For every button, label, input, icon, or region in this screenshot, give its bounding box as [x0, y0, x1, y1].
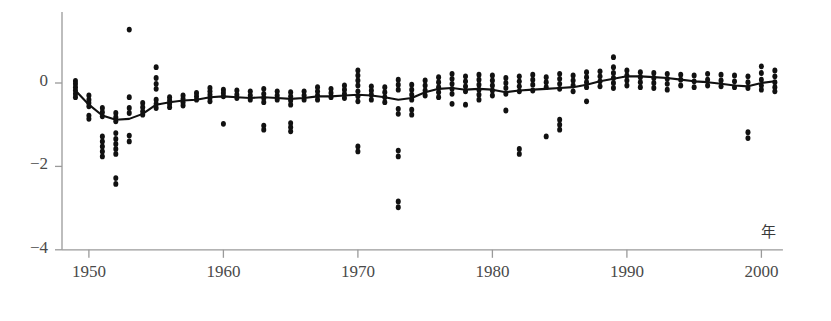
data-point	[127, 138, 132, 144]
data-point	[517, 151, 522, 157]
data-point	[127, 94, 132, 100]
data-point	[745, 135, 750, 141]
data-point	[113, 130, 118, 136]
data-point	[557, 117, 562, 123]
data-point	[611, 80, 616, 86]
data-point	[396, 148, 401, 154]
data-point	[503, 85, 508, 91]
data-point	[759, 87, 764, 93]
data-point	[355, 88, 360, 94]
data-point	[261, 99, 266, 105]
data-point	[692, 84, 697, 90]
x-tick-label-1950: 1950	[54, 262, 124, 282]
data-point	[127, 105, 132, 111]
data-point	[423, 83, 428, 89]
data-point	[611, 64, 616, 70]
data-point	[476, 82, 481, 88]
data-point	[127, 133, 132, 139]
data-point	[745, 73, 750, 79]
data-point	[503, 80, 508, 86]
data-point	[355, 98, 360, 104]
data-point	[719, 78, 724, 84]
y-tick-label-neg2: −2	[0, 154, 48, 174]
data-point	[584, 74, 589, 80]
data-point	[355, 148, 360, 154]
data-point	[113, 136, 118, 142]
data-point	[315, 97, 320, 103]
data-point	[732, 78, 737, 84]
data-point	[705, 71, 710, 77]
data-point	[571, 88, 576, 94]
data-point	[490, 83, 495, 89]
data-point	[772, 68, 777, 74]
data-point	[759, 77, 764, 83]
data-point	[557, 122, 562, 128]
data-point	[154, 64, 159, 70]
data-point	[382, 89, 387, 95]
x-axis-unit-label: 年	[761, 220, 776, 241]
data-point	[598, 68, 603, 74]
data-point	[638, 79, 643, 85]
data-point	[436, 79, 441, 85]
data-point	[396, 77, 401, 83]
data-point	[598, 83, 603, 89]
data-points-layer	[73, 27, 777, 210]
data-point	[409, 87, 414, 93]
data-point	[127, 27, 132, 33]
data-point	[355, 143, 360, 149]
data-point	[382, 84, 387, 90]
data-point	[450, 101, 455, 107]
chart-figure: 0−2−4 195019601970198019902000 年	[0, 0, 831, 321]
data-point	[624, 68, 629, 74]
data-point	[638, 69, 643, 75]
data-point	[517, 73, 522, 79]
data-point	[638, 84, 643, 90]
data-point	[355, 78, 360, 84]
data-point	[396, 111, 401, 117]
data-point	[678, 83, 683, 89]
data-point	[557, 76, 562, 82]
x-tick-label-1970: 1970	[323, 262, 393, 282]
data-point	[772, 88, 777, 94]
data-point	[732, 73, 737, 79]
y-tick-label-neg4: −4	[0, 238, 48, 258]
data-point	[288, 102, 293, 108]
data-point	[719, 72, 724, 78]
data-point	[598, 73, 603, 79]
data-point	[476, 92, 481, 98]
data-point	[665, 71, 670, 77]
data-point	[571, 78, 576, 84]
data-point	[450, 76, 455, 82]
data-point	[113, 181, 118, 187]
data-point	[490, 78, 495, 84]
data-point	[517, 78, 522, 84]
data-point	[369, 97, 374, 103]
data-point	[113, 175, 118, 181]
data-point	[154, 75, 159, 81]
data-point	[503, 75, 508, 81]
x-tick-label-1990: 1990	[592, 262, 662, 282]
data-point	[490, 93, 495, 99]
data-point	[261, 127, 266, 133]
data-point	[463, 73, 468, 79]
data-point	[167, 104, 172, 110]
data-point	[261, 86, 266, 92]
data-point	[705, 83, 710, 89]
data-point	[463, 78, 468, 84]
data-point	[100, 143, 105, 149]
data-point	[355, 73, 360, 79]
data-point	[624, 78, 629, 84]
axis-lines	[55, 12, 783, 258]
data-point	[624, 83, 629, 89]
data-point	[450, 91, 455, 97]
data-point	[571, 73, 576, 79]
data-point	[557, 127, 562, 133]
data-point	[665, 87, 670, 93]
data-point	[530, 82, 535, 88]
data-point	[100, 138, 105, 144]
data-point	[113, 146, 118, 152]
x-tick-label-1960: 1960	[188, 262, 258, 282]
data-point	[181, 103, 186, 109]
data-point	[207, 98, 212, 104]
data-point	[772, 73, 777, 79]
